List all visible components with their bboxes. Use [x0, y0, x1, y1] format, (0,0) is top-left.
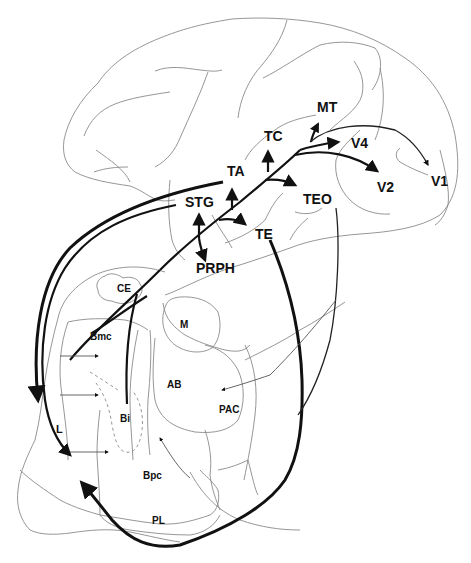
- amygdala-projections: [36, 182, 338, 546]
- label-te: TE: [255, 227, 273, 241]
- brain-pathway-diagram: MT TC V4 V1 V2 TA TEO STG TE PRPH CE M B…: [0, 0, 471, 563]
- label-tc: TC: [264, 129, 283, 143]
- label-l: L: [56, 424, 63, 435]
- label-v4: V4: [351, 136, 368, 150]
- diagram-drawing: [0, 0, 471, 563]
- label-teo: TEO: [303, 192, 332, 206]
- cortical-visual-stream: [70, 124, 428, 360]
- label-stg: STG: [185, 195, 214, 209]
- label-pl: PL: [152, 516, 165, 526]
- label-v2: V2: [377, 180, 394, 194]
- label-bpc: Bpc: [143, 471, 162, 481]
- label-ce: CE: [117, 284, 131, 294]
- label-bmc: Bmc: [90, 332, 112, 342]
- label-m: M: [180, 320, 188, 330]
- label-bi: Bi: [120, 414, 130, 424]
- label-ta: TA: [227, 164, 245, 178]
- label-ab: AB: [167, 380, 181, 390]
- label-prph: PRPH: [196, 261, 235, 275]
- label-pac: PAC: [219, 405, 239, 415]
- amygdala-outline: [18, 267, 346, 542]
- brain-outline: [63, 18, 457, 295]
- label-mt: MT: [317, 100, 337, 114]
- label-v1: V1: [431, 174, 448, 188]
